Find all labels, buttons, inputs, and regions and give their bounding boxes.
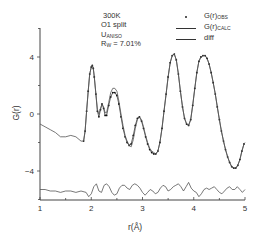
line-marker-icon (176, 39, 196, 40)
annotation-block: 300K O1 split UANISO RW = 7.01% (101, 11, 141, 50)
annotation-temperature: 300K (101, 11, 141, 20)
x-tick-label: 1 (38, 204, 43, 213)
calc-curve (40, 54, 245, 168)
x-tick-label: 2 (89, 204, 94, 213)
legend: G(r)OBS G(r)CALC diff (182, 12, 261, 48)
x-tick-label: 4 (192, 204, 197, 213)
y-tick-label: 0 (30, 110, 35, 119)
plot-area (40, 53, 245, 197)
y-tick-label: −4 (25, 167, 35, 176)
x-tick-label: 3 (140, 204, 145, 213)
dot-marker-icon (185, 16, 187, 18)
axes: −40412345 (25, 28, 248, 213)
y-tick-label: 4 (30, 53, 35, 62)
x-axis-label: r(Å) (128, 222, 142, 232)
obs-data-point (112, 92, 114, 94)
obs-data-point (98, 116, 100, 118)
y-axis-label: G(r) (11, 105, 21, 120)
annotation-rw: RW = 7.01% (101, 39, 141, 50)
diff-curve (40, 182, 245, 196)
x-tick-label: 5 (243, 204, 248, 213)
obs-data-point (106, 115, 108, 117)
obs-data-point (114, 92, 116, 94)
annotation-model: O1 split (101, 20, 141, 29)
line-marker-icon (176, 28, 196, 29)
